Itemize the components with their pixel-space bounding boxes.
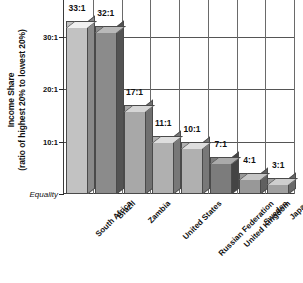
income-share-bar-chart: Income Share (ratio of highest 20% to lo… (0, 0, 303, 283)
bar-sweden: 4:1 (239, 173, 261, 194)
bar-front-face (124, 105, 146, 194)
bar-front-face (95, 26, 117, 194)
x-axis-tick-label: United States (181, 199, 224, 242)
bar-value-label: 3:1 (272, 160, 284, 170)
x-axis-tick-label: Japan (288, 199, 303, 222)
bar-value-label: 17:1 (126, 87, 143, 97)
y-axis-tick-label: 10:1 (2, 137, 58, 146)
bar-zambia: 17:1 (124, 105, 146, 194)
y-axis-tick (59, 37, 64, 38)
bar-value-label: 4:1 (243, 155, 255, 165)
vertical-gridline (294, 0, 295, 194)
x-axis-tick-label: Brazil (115, 199, 137, 221)
bar-south-africa: 33:1 (66, 21, 88, 194)
bar-value-label: 32:1 (97, 8, 114, 18)
x-axis-tick-label: Zambia (146, 199, 172, 225)
y-axis-tick-label: 30:1 (2, 32, 58, 41)
bar-value-label: 7:1 (215, 139, 227, 149)
y-axis-tick (59, 89, 64, 90)
bar-russian-federation: 10:1 (181, 142, 203, 194)
bar-value-label: 10:1 (183, 124, 200, 134)
y-axis-tick-labels: 30:120:110:1Equality (0, 0, 58, 200)
bar-front-face (181, 142, 203, 194)
bar-front-face (66, 21, 88, 194)
bar-united-states: 11:1 (152, 136, 174, 194)
y-axis-tick (59, 142, 64, 143)
bar-brazil: 32:1 (95, 26, 117, 194)
bar-front-face (152, 136, 174, 194)
bar-value-label: 33:1 (68, 3, 85, 13)
y-axis-tick-label: 20:1 (2, 85, 58, 94)
bar-value-label: 11:1 (155, 118, 172, 128)
vertical-gridline (265, 0, 266, 194)
bar-united-kingdom: 7:1 (210, 157, 232, 194)
plot-area: 33:132:117:111:110:17:14:13:1 (63, 0, 293, 194)
bar-japan: 3:1 (267, 178, 289, 194)
x-axis-tick-labels: South AfricaBrazilZambiaUnited StatesRus… (0, 194, 303, 283)
